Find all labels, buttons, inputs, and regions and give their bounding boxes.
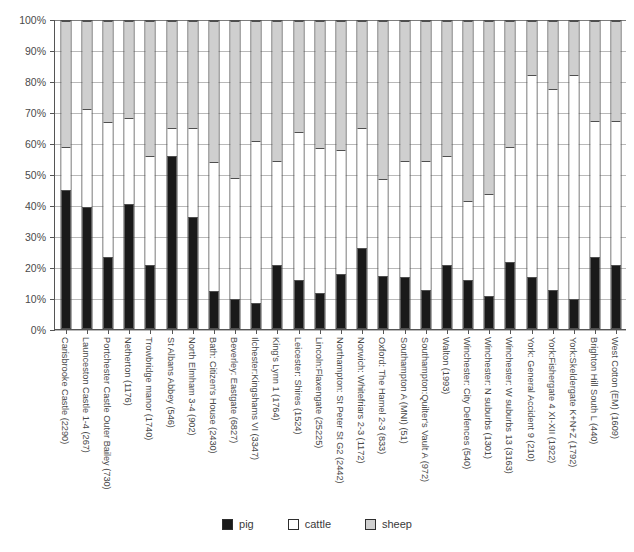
bar-segment-cattle [273,161,282,265]
x-axis-tick [574,329,575,334]
y-axis-label: 100% [19,15,46,26]
bar-segment-pig [82,207,91,328]
bar-segment-sheep [336,21,345,150]
bar-slot [140,20,161,329]
x-axis-label: York: General Accident 9 (210) [525,337,534,462]
bar-segment-sheep [400,21,409,161]
y-axis-label: 20% [25,263,46,274]
bar-segment-sheep [548,21,557,89]
stacked-bar [251,20,262,329]
x-axis-tick [299,329,300,334]
bar-segment-sheep [485,21,494,194]
legend-swatch-pig [222,519,233,530]
bar-slot [436,20,457,329]
bar-slot [563,20,584,329]
stacked-bar [463,20,474,329]
x-axis-tick [235,329,236,334]
y-axis-label: 10% [25,294,46,305]
y-axis-label: 60% [25,139,46,150]
bar-segment-sheep [294,21,303,132]
bar-slot [182,20,203,329]
x-axis-tick [489,329,490,334]
x-axis-label: Southampton A (MNI) (51) [398,337,407,444]
bar-segment-cattle [506,147,515,262]
bar-segment-pig [400,277,409,328]
x-axis-tick [510,329,511,334]
bar-segment-cattle [400,161,409,278]
bar-segment-cattle [379,179,388,276]
bar-slot [55,20,76,329]
stacked-bar [272,20,283,329]
bar-slot [224,20,245,329]
bar-slot [500,20,521,329]
bar-segment-cattle [591,121,600,258]
x-axis-tick [426,329,427,334]
x-axis-tick [150,329,151,334]
x-axis-tick [447,329,448,334]
x-axis-tick [553,329,554,334]
bar-segment-cattle [485,194,494,295]
bar-segment-sheep [570,21,579,75]
y-axis-label: 30% [25,232,46,243]
bar-slot [479,20,500,329]
bar-segment-pig [231,299,240,328]
stacked-bar [166,20,177,329]
x-axis-label: Ilchester:Kingshams VI (3347) [250,337,259,460]
x-axis-label: Beverley: Eastgate (6827) [229,337,238,443]
bar-segment-sheep [103,21,112,122]
bar-slot [542,20,563,329]
bar-segment-sheep [125,21,134,118]
x-axis-tick [277,329,278,334]
bar-segment-cattle [103,122,112,257]
bar-slot [458,20,479,329]
stacked-bar [484,20,495,329]
x-axis-tick [256,329,257,334]
bar-segment-pig [527,277,536,328]
bar-segment-pig [506,262,515,328]
bar-segment-pig [379,276,388,328]
stacked-bar [547,20,558,329]
plot-area: 0%10%20%30%40%50%60%70%80%90%100% [54,20,626,330]
bar-segment-pig [548,290,557,328]
x-axis-tick [405,329,406,334]
bar-segment-sheep [231,21,240,178]
bar-segment-sheep [358,21,367,128]
bar-segment-pig [294,280,303,328]
bar-segment-sheep [315,21,324,148]
x-axis-tick [129,329,130,334]
stacked-bar [293,20,304,329]
stacked-bar [378,20,389,329]
bar-segment-cattle [252,141,261,304]
bar-segment-cattle [464,201,473,281]
x-axis-label: Oxford: The Hamel 2-3 (833) [377,337,386,454]
stacked-bar-chart: 0%10%20%30%40%50%60%70%80%90%100% Carisb… [0,0,634,552]
x-axis-label: Launceston Castle 1-4 (267) [81,337,90,453]
bar-segment-cattle [125,118,134,204]
legend-label-pig: pig [239,518,254,530]
x-axis-tick [320,329,321,334]
bar-segment-cattle [146,156,155,265]
bar-segment-pig [358,248,367,328]
x-axis-label: King's Lynn 1 (1764) [271,337,280,421]
bar-segment-sheep [464,21,473,201]
bar-segment-pig [315,293,324,328]
stacked-bar [399,20,410,329]
bar-slot [267,20,288,329]
bar-slot [606,20,627,329]
y-axis-label: 90% [25,46,46,57]
bar-segment-cattle [61,147,70,190]
x-axis-label: Southampton:Quilter's Vault A (972) [420,337,429,482]
stacked-bar [124,20,135,329]
bar-slot [309,20,330,329]
stacked-bar [569,20,580,329]
bar-slot [288,20,309,329]
stacked-bar [230,20,241,329]
stacked-bar [505,20,516,329]
x-axis-tick [532,329,533,334]
x-axis-tick [193,329,194,334]
x-axis-label: Norwich: Whitefriars 2-3 (1172) [356,337,365,463]
bar-segment-cattle [209,162,218,291]
x-axis-tick [468,329,469,334]
bar-segment-sheep [209,21,218,162]
bar-segment-sheep [146,21,155,156]
